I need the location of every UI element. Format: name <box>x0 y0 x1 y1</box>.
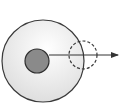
diagram-canvas <box>0 0 128 107</box>
diagram-svg <box>0 0 128 107</box>
inner-circle <box>25 49 49 73</box>
